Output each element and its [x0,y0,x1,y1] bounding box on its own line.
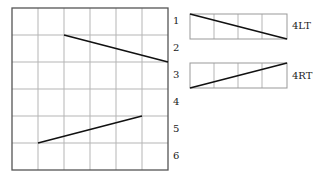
legend-4rt-label: 4RT [292,70,313,81]
legend-4rt: 4RT [190,63,313,88]
legend-4lt: 4LT [190,14,311,39]
diagram-canvas: 1 2 3 4 5 6 4LT 4RT [0,0,317,178]
row-labels: 1 2 3 4 5 6 [173,15,179,161]
row-label-2: 2 [173,42,179,53]
row-label-5: 5 [173,123,179,134]
row-label-4: 4 [173,96,179,107]
legend-4lt-label: 4LT [292,20,311,31]
row-label-3: 3 [173,69,179,80]
row-label-6: 6 [173,150,179,161]
row-label-1: 1 [173,15,179,26]
main-grid [12,8,168,170]
